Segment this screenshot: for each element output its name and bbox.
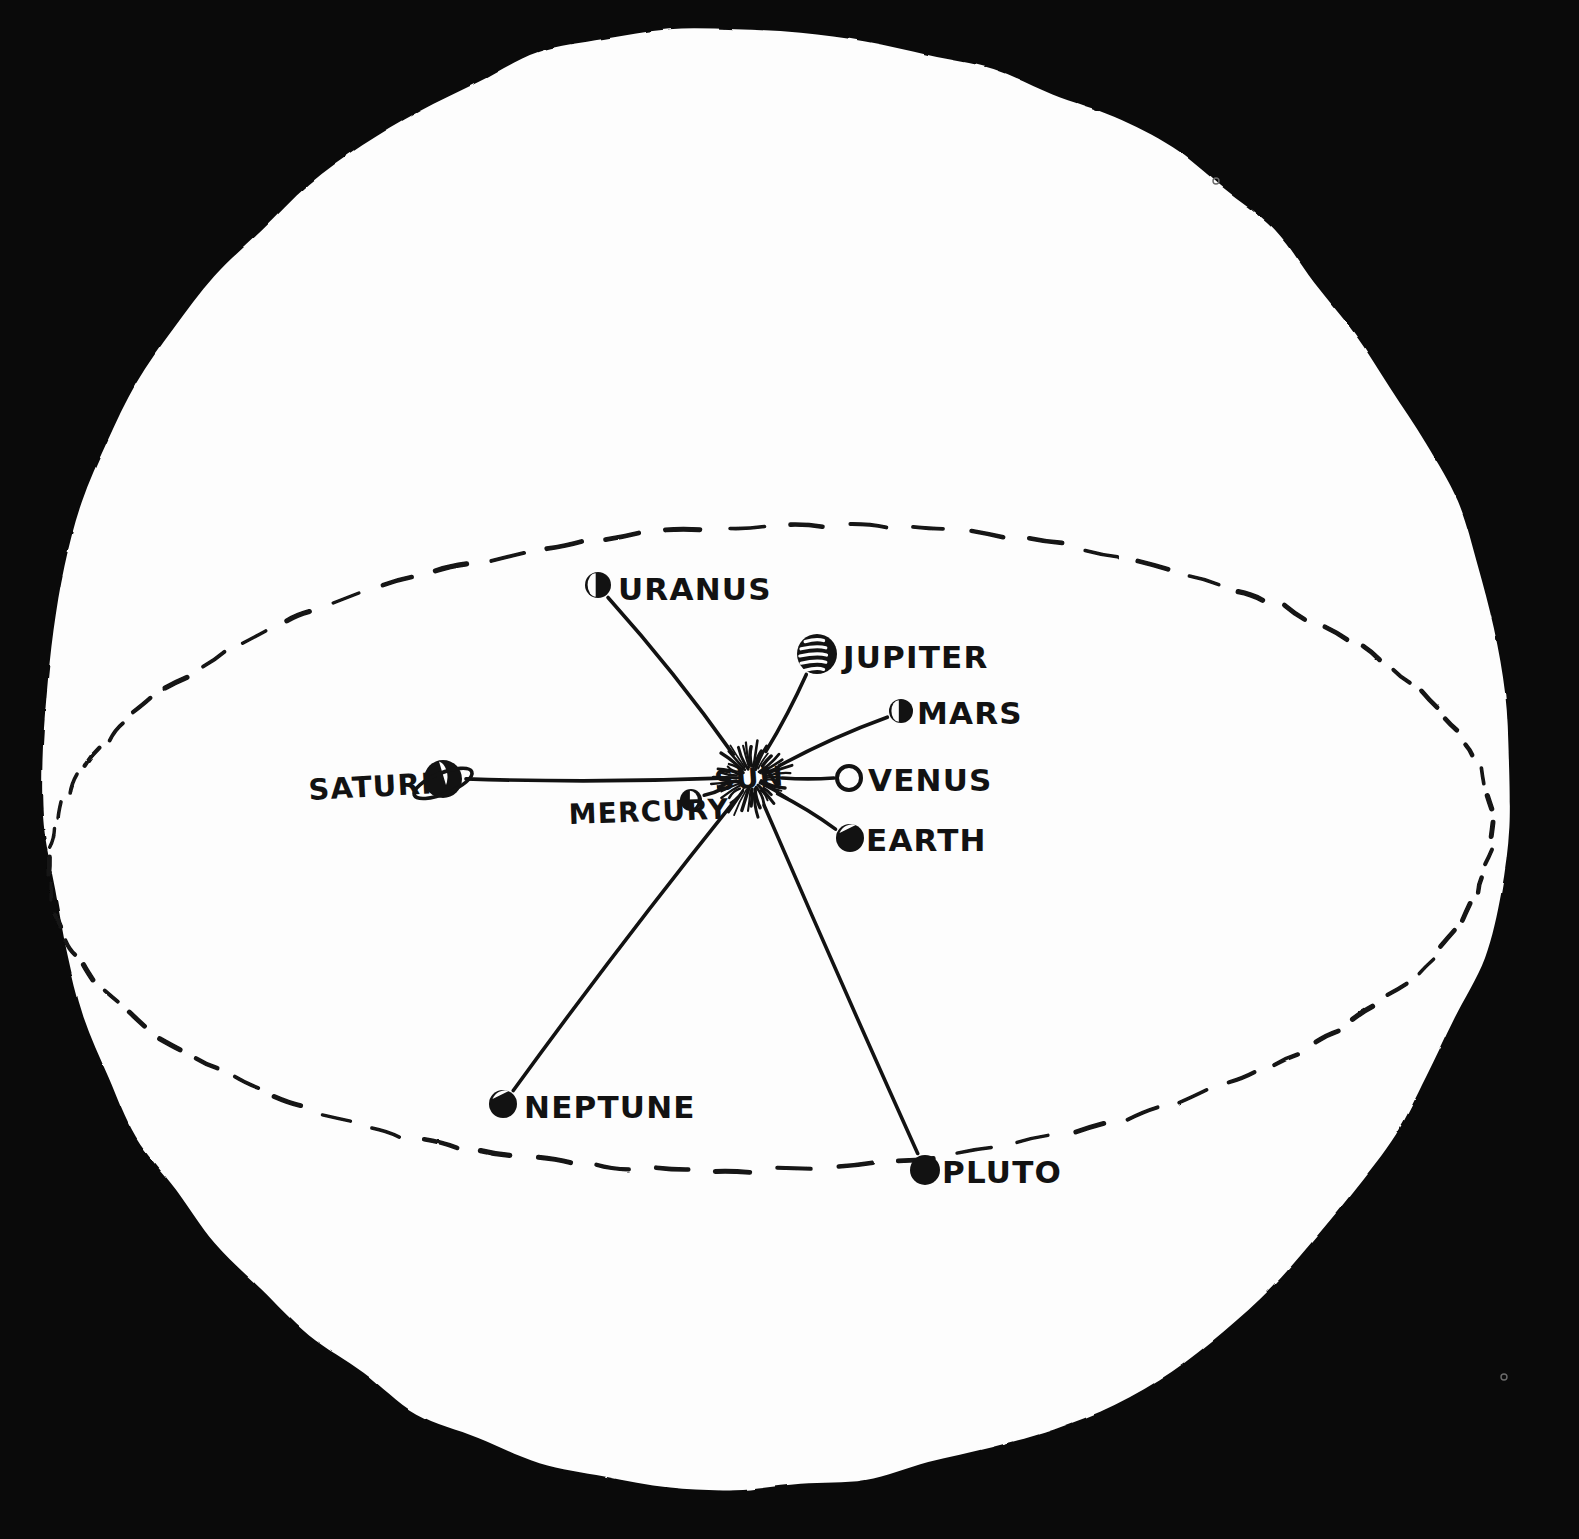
planet-glyph-jupiter	[797, 634, 837, 674]
orbit-dash	[666, 529, 700, 530]
planet-glyph-pluto	[910, 1155, 940, 1185]
label-uranus: URANUS	[618, 571, 772, 607]
orbit-dash	[730, 527, 764, 529]
orbit-dash	[49, 857, 50, 875]
orbit-dash	[1491, 822, 1493, 836]
label-venus: VENUS	[868, 762, 993, 798]
orbit-dash	[777, 1168, 810, 1169]
orbit-dash	[913, 527, 943, 529]
connector-line-venus	[782, 778, 834, 779]
orbit-dash	[791, 525, 823, 527]
orbit-dash	[656, 1168, 688, 1170]
solar-system-illustration: URANUSJUPITERMARSVENUSEARTHMERCURYSATURN…	[0, 0, 1579, 1539]
planet-glyph-mars	[889, 699, 913, 723]
label-mercury: MERCURY	[568, 792, 730, 831]
label-jupiter: JUPITER	[841, 639, 989, 675]
label-mars: MARS	[917, 695, 1023, 731]
label-pluto: PLUTO	[942, 1154, 1062, 1190]
label-sun: SUN	[713, 760, 785, 798]
planet-glyph-uranus	[585, 572, 611, 598]
label-neptune: NEPTUNE	[524, 1089, 696, 1125]
orbit-dash	[715, 1171, 749, 1172]
orbit-dash	[1481, 768, 1483, 784]
label-saturn: SATURN	[308, 766, 448, 807]
planet-glyph-neptune	[489, 1090, 517, 1118]
planet-glyph-earth	[836, 824, 864, 852]
diagram-canvas: URANUSJUPITERMARSVENUSEARTHMERCURYSATURN…	[0, 0, 1579, 1539]
label-earth: EARTH	[866, 822, 987, 858]
